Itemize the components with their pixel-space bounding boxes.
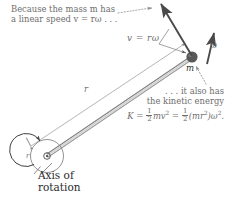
kinetic-energy-equation: K = 1 2 mv2 = 1 2 (mr2)ω2. <box>127 108 224 123</box>
velocity-equation-label: v = rω <box>127 33 159 44</box>
speed-caption-leader <box>118 8 152 13</box>
ke-term2-body: (mr <box>189 111 204 121</box>
half-denominator-2: 2 <box>182 116 188 123</box>
pivot-radius-label: r <box>26 152 29 160</box>
mass-label: m <box>186 63 194 73</box>
axis-label-line1: Axis of <box>38 170 80 182</box>
point-mass <box>186 51 197 62</box>
radius-label: r <box>84 84 88 94</box>
half-denominator-1: 2 <box>146 116 152 123</box>
ke-equals-1: = <box>136 111 143 121</box>
velocity-label-connector <box>159 29 186 53</box>
pivot-rotation-arrow <box>10 133 40 166</box>
axis-label-line2: rotation <box>38 182 80 194</box>
speed-caption-line2: a linear speed v = rω . . . <box>11 15 118 25</box>
omega-label: ω <box>210 40 217 50</box>
ke-term1-exponent: 2 <box>166 110 170 116</box>
one-half-fraction-1: 1 2 <box>146 108 152 123</box>
ke-caption-leader <box>196 66 206 84</box>
ke-caption-line2: the kinetic energy <box>122 97 224 107</box>
axis-of-rotation-label: Axis of rotation <box>38 170 80 194</box>
kinetic-energy-caption: . . . it also has the kinetic energy K =… <box>122 87 224 123</box>
one-half-fraction-2: 1 2 <box>182 108 188 123</box>
ke-term2-tail: )ω <box>208 111 218 121</box>
ke-lhs: K <box>127 111 133 121</box>
ke-period: . <box>221 111 224 121</box>
ke-equals-2: = <box>172 111 179 121</box>
rotational-kinetic-energy-figure: Because the mass m has a linear speed v … <box>0 0 226 201</box>
ke-term1-body: mv <box>153 111 166 121</box>
speed-caption: Because the mass m has a linear speed v … <box>11 5 118 25</box>
velocity-vector <box>161 4 192 56</box>
